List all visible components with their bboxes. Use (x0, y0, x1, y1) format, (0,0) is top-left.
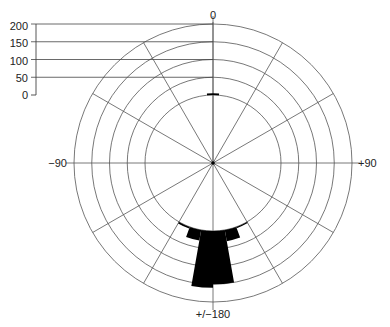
angle-label-minus-90: −90 (48, 157, 67, 169)
grid-spoke (144, 43, 214, 163)
data-bar (178, 222, 190, 229)
radial-scale (31, 24, 213, 95)
grid-spoke (93, 94, 213, 164)
scale-label-0: 0 (22, 89, 28, 101)
data-bar (236, 222, 247, 228)
grid-spoke (213, 94, 333, 164)
scale-label-100: 100 (10, 55, 28, 67)
data-bar (225, 227, 240, 241)
scale-label-150: 150 (10, 37, 28, 49)
grid-spoke (213, 163, 333, 233)
scale-label-50: 50 (16, 72, 28, 84)
data-bar (186, 227, 201, 241)
angle-label-plus-90: +90 (358, 157, 377, 169)
angle-label-0: 0 (210, 9, 216, 21)
data-bar (207, 93, 219, 95)
polar-chart: 0 +90 +/−180 −90 200 150 100 50 0 (0, 0, 390, 327)
grid-spoke (93, 163, 213, 233)
center-point (211, 161, 215, 165)
grid-spoke (213, 43, 283, 163)
center-dot (211, 161, 215, 165)
angle-label-180: +/−180 (196, 308, 230, 320)
scale-label-200: 200 (10, 20, 28, 32)
